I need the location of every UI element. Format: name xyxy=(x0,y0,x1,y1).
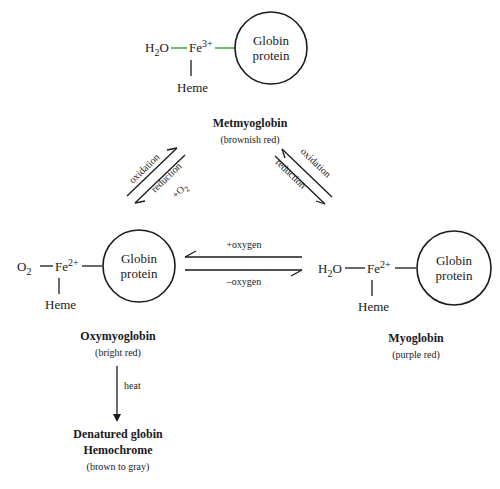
met-iron: Fe3+ xyxy=(189,38,213,55)
oxy-globin-line2: protein xyxy=(121,266,158,281)
minus-oxygen-label: –oxygen xyxy=(226,276,261,287)
myo-heme-label: Heme xyxy=(358,299,389,314)
metmyoglobin-color: (brownish red) xyxy=(220,134,279,146)
right-equilibrium-arrows: oxidation reduction xyxy=(274,146,334,204)
met-globin-line2: protein xyxy=(253,48,290,63)
right-reduction-label: reduction xyxy=(274,157,309,191)
oxy-globin-line1: Globin xyxy=(121,251,158,266)
left-o2-label: +O2 xyxy=(170,181,192,203)
myo-globin-line2: protein xyxy=(436,268,473,283)
denatured-color: (brown to gray) xyxy=(87,461,150,473)
oxy-heme-label: Heme xyxy=(45,297,76,312)
myo-iron: Fe2+ xyxy=(367,259,391,276)
metmyoglobin-name: Metmyoglobin xyxy=(213,116,288,130)
oxy-ligand: O2 xyxy=(17,259,31,277)
met-globin-line1: Globin xyxy=(253,33,290,48)
oxygen-equilibrium-arrows: +oxygen –oxygen xyxy=(185,239,302,287)
met-ligand: H2O xyxy=(145,40,169,58)
myo-globin-line1: Globin xyxy=(436,253,473,268)
myoglobin-forms-diagram: H2O Fe3+ Heme Globin protein Metmyoglobi… xyxy=(0,0,500,489)
heat-arrow: heat xyxy=(113,366,141,422)
heat-arrow-head xyxy=(113,414,121,422)
left-equilibrium-arrows: oxidation reduction +O2 xyxy=(127,148,192,203)
right-oxidation-label: oxidation xyxy=(299,146,334,180)
myoglobin-color: (purple red) xyxy=(392,349,439,361)
denatured-line1: Denatured globin xyxy=(73,427,163,441)
myoglobin-structure: H2O Fe2+ Heme Globin protein xyxy=(318,231,491,314)
myo-ligand: H2O xyxy=(318,261,342,279)
met-heme-label: Heme xyxy=(177,80,208,95)
oxy-iron: Fe2+ xyxy=(55,257,79,274)
metmyoglobin-structure: H2O Fe3+ Heme Globin protein xyxy=(145,12,307,95)
denatured-line2: Hemochrome xyxy=(83,443,153,457)
myoglobin-name: Myoglobin xyxy=(388,331,444,345)
heat-label: heat xyxy=(124,380,141,391)
oxymyoglobin-structure: O2 Fe2+ Heme Globin protein xyxy=(17,230,175,312)
oxymyoglobin-name: Oxymyoglobin xyxy=(80,329,156,343)
plus-oxygen-label: +oxygen xyxy=(226,239,261,250)
oxymyoglobin-color: (bright red) xyxy=(95,347,141,359)
